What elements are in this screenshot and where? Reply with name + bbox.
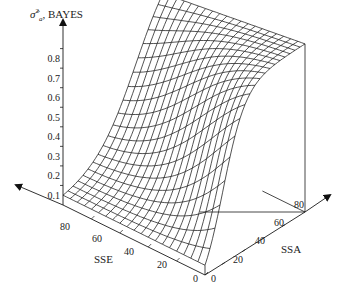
sse-tick-20: 20 [157, 260, 167, 270]
ssa-tick-80: 80 [294, 200, 304, 210]
sse-tick-0: 0 [193, 274, 198, 284]
sse-tick-40: 40 [124, 247, 134, 257]
z-tick-0.4: 0.4 [38, 132, 60, 142]
ssa-tick-0: 0 [211, 274, 216, 284]
z-tick-0.8: 0.8 [38, 54, 60, 64]
ssa-axis-label: SSA [281, 244, 301, 255]
z-axis-label: σ̂2a, BAYES [30, 6, 83, 25]
ssa-tick-20: 20 [233, 255, 243, 265]
z-tick-0.6: 0.6 [38, 93, 60, 103]
z-axis-sup: 2 [35, 7, 39, 15]
sse-tick-60: 60 [92, 234, 102, 244]
sse-tick-80: 80 [60, 222, 70, 232]
z-tick-0.1: 0.1 [38, 191, 60, 201]
z-tick-0.5: 0.5 [38, 113, 60, 123]
ssa-tick-40: 40 [255, 236, 265, 246]
z-tick-0.7: 0.7 [38, 74, 60, 84]
z-axis-title: BAYES [48, 8, 83, 20]
surface-mesh [63, 0, 305, 265]
ssa-tick-60: 60 [274, 218, 284, 228]
sse-axis-label: SSE [94, 254, 113, 265]
z-tick-0.2: 0.2 [38, 171, 60, 181]
z-tick-0.3: 0.3 [38, 152, 60, 162]
